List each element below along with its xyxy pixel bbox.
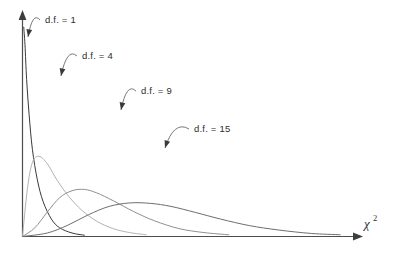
leader-line-df-4: [61, 54, 77, 76]
leader-line-df-15: [165, 127, 189, 148]
annotation-labels: d.f. = 1 d.f. = 4 d.f. = 9 d.f. = 15: [45, 14, 230, 134]
density-curve-df-15: [23, 203, 341, 237]
leader-arrowhead-df-15: [165, 140, 171, 148]
leader-arrowhead-df-4: [60, 68, 66, 76]
curve-label-df-4: d.f. = 4: [82, 50, 113, 61]
leader-arrowhead-df-9: [120, 102, 126, 110]
chi-squared-chart: d.f. = 1 d.f. = 4 d.f. = 9 d.f. = 15 χ 2: [0, 0, 395, 263]
x-axis-label: χ 2: [362, 213, 377, 231]
chi-symbol: χ: [362, 216, 370, 231]
curve-label-df-9: d.f. = 9: [141, 85, 172, 96]
x-axis-arrowhead: [353, 233, 363, 241]
chart-canvas: d.f. = 1 d.f. = 4 d.f. = 9 d.f. = 15 χ 2: [0, 0, 395, 263]
leader-arrowhead-df-1: [26, 29, 32, 37]
curve-label-df-15: d.f. = 15: [194, 123, 230, 134]
y-axis-arrowhead: [19, 10, 27, 20]
leader-line-df-1: [28, 18, 40, 37]
curve-group: [23, 27, 341, 236]
curve-label-df-1: d.f. = 1: [45, 14, 76, 25]
leader-line-df-9: [121, 89, 136, 110]
annotation-leaders: [26, 18, 189, 148]
chi-superscript-2: 2: [373, 213, 377, 223]
